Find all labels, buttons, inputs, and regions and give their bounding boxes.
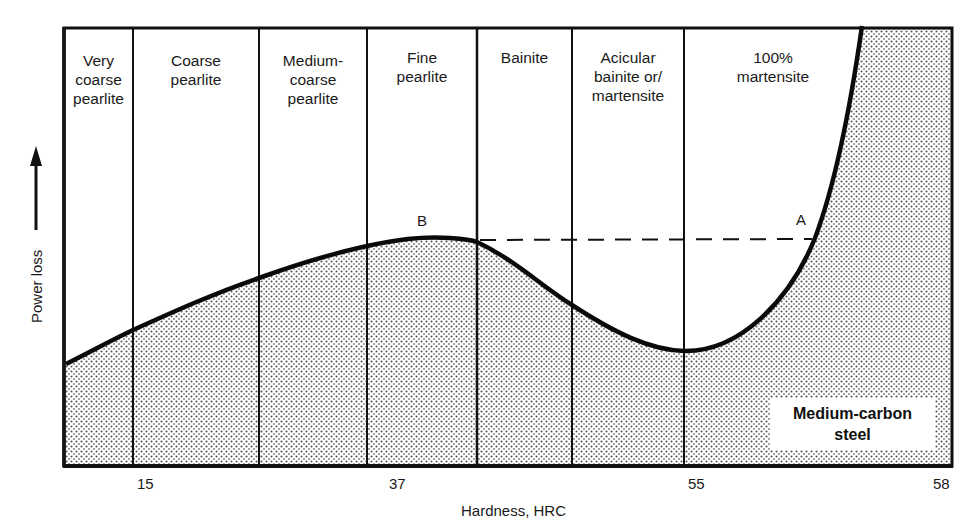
- label-line: Very: [64, 51, 133, 70]
- point-label-b: B: [417, 212, 427, 229]
- region-label-coarse-pearlite: Coarse pearlite: [133, 51, 259, 89]
- y-axis-label: Power loss: [28, 250, 45, 323]
- label-line: coarse: [64, 70, 133, 89]
- x-tick-15: 15: [137, 475, 154, 492]
- region-label-very-coarse-pearlite: Very coarse pearlite: [64, 51, 133, 108]
- x-tick-55: 55: [688, 475, 705, 492]
- label-line: Fine: [367, 48, 477, 67]
- label-line: bainite or/: [572, 67, 684, 86]
- region-label-fine-pearlite: Fine pearlite: [367, 48, 477, 86]
- label-line: pearlite: [64, 89, 133, 108]
- label-line: Bainite: [477, 48, 572, 67]
- label-line: Acicular: [572, 48, 684, 67]
- label-line: martensite: [684, 67, 862, 86]
- region-label-acicular-bainite-or-martensite: Acicular bainite or/ martensite: [572, 48, 684, 105]
- label-line: martensite: [572, 86, 684, 105]
- up-arrow-icon: [30, 146, 42, 230]
- label-line: 100%: [684, 48, 862, 67]
- region-label-medium-coarse-pearlite: Medium- coarse pearlite: [259, 51, 367, 108]
- legend-line-1: Medium-carbon: [770, 403, 935, 424]
- label-line: pearlite: [259, 89, 367, 108]
- x-tick-58: 58: [933, 475, 950, 492]
- label-line: Medium-: [259, 51, 367, 70]
- label-line: coarse: [259, 70, 367, 89]
- x-tick-37: 37: [389, 475, 406, 492]
- legend: Medium-carbon steel: [770, 400, 935, 448]
- label-line: pearlite: [133, 70, 259, 89]
- legend-line-2: steel: [770, 424, 935, 445]
- point-label-a: A: [796, 211, 806, 228]
- label-line: pearlite: [367, 67, 477, 86]
- x-axis-label: Hardness, HRC: [461, 502, 566, 519]
- label-line: Coarse: [133, 51, 259, 70]
- dashed-line-b-to-a: [480, 239, 812, 240]
- region-label-bainite: Bainite: [477, 48, 572, 67]
- region-label-100-percent-martensite: 100% martensite: [684, 48, 862, 86]
